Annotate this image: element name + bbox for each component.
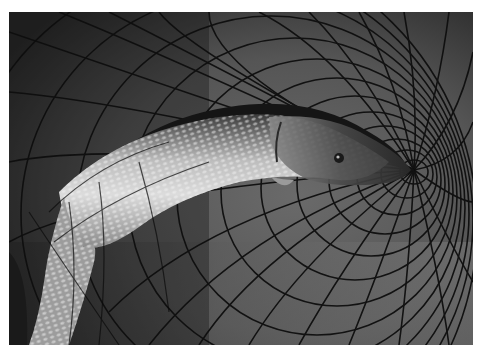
pike-in-net-photo — [9, 12, 473, 345]
photo: Black-and-white photograph of a northern… — [9, 12, 473, 345]
